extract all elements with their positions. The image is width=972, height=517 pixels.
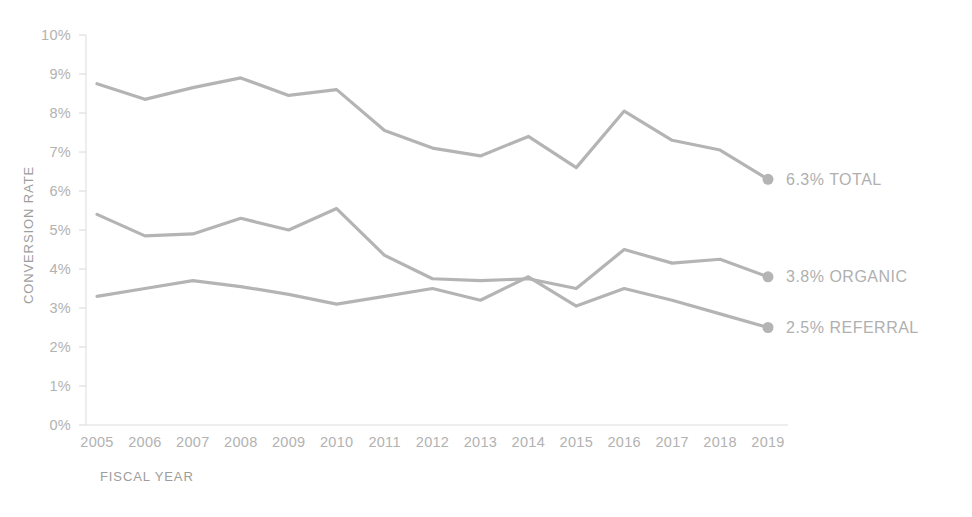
axis-group [86,35,788,425]
x-tick-label-2010: 2010 [320,434,353,450]
series-line-referral [97,277,768,328]
y-tick-label: 9% [49,66,71,82]
x-tick-label-2009: 2009 [272,434,305,450]
x-tick-label-2018: 2018 [703,434,736,450]
x-tick-label-2017: 2017 [655,434,688,450]
y-tick-label: 5% [49,222,71,238]
y-axis-tick-labels: 0%1%2%3%4%5%6%7%8%9%10% [41,27,86,433]
x-axis-tick-labels: 2005200620072008200920102011201220132014… [80,434,784,450]
x-tick-label-2007: 2007 [176,434,209,450]
conversion-rate-line-chart: 0%1%2%3%4%5%6%7%8%9%10% 2005200620072008… [0,0,972,517]
x-tick-label-2012: 2012 [416,434,449,450]
y-tick-label: 2% [49,339,71,355]
y-tick-label: 0% [49,417,71,433]
series-end-dot-total [763,174,774,185]
x-tick-label-2015: 2015 [560,434,593,450]
y-tick-label: 7% [49,144,71,160]
x-tick-label-2019: 2019 [751,434,784,450]
chart-canvas: 0%1%2%3%4%5%6%7%8%9%10% 2005200620072008… [0,0,972,517]
x-tick-label-2008: 2008 [224,434,257,450]
y-tick-label: 8% [49,105,71,121]
y-tick-label: 4% [49,261,71,277]
series-end-label-referral: 2.5% REFERRAL [786,319,919,336]
x-tick-label-2005: 2005 [80,434,113,450]
y-tick-label: 6% [49,183,71,199]
series-line-organic [97,209,768,289]
x-tick-label-2014: 2014 [512,434,545,450]
y-tick-label: 3% [49,300,71,316]
x-tick-label-2013: 2013 [464,434,497,450]
x-tick-label-2006: 2006 [128,434,161,450]
series-end-label-total: 6.3% TOTAL [786,171,882,188]
x-tick-label-2011: 2011 [368,434,400,450]
y-tick-label: 10% [41,27,71,43]
series-end-labels: 6.3% TOTAL3.8% ORGANIC2.5% REFERRAL [763,171,919,336]
series-end-label-organic: 3.8% ORGANIC [786,268,908,285]
series-end-dot-organic [763,271,774,282]
x-axis-title: FISCAL YEAR [100,469,194,484]
series-lines [97,78,768,328]
y-tick-label: 1% [49,378,71,394]
y-axis-title: CONVERSION RATE [21,166,36,304]
series-end-dot-referral [763,322,774,333]
series-line-total [97,78,768,179]
x-tick-label-2016: 2016 [607,434,640,450]
